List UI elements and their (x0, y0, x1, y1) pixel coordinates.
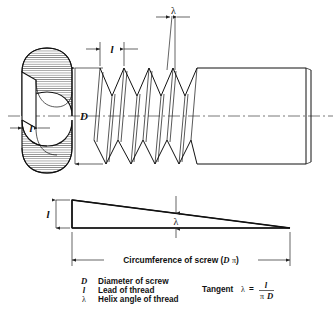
diameter-label: D (79, 110, 88, 122)
thread-flank-4b (146, 71, 152, 142)
legend-symbol-2: λ (82, 295, 86, 304)
helix-angle-dimension-top: λ (156, 5, 190, 70)
formula-variable: λ (241, 285, 245, 294)
coil-cut-face (22, 72, 36, 128)
circumference-caption: Circumference of screw (D π) (123, 255, 239, 265)
circumference-caption-suffix: ) (236, 255, 239, 265)
circumference-caption-d: D (222, 255, 229, 265)
triangle-lead-dimension: l (46, 200, 70, 228)
helix-coil (22, 48, 72, 173)
triangle-lead-label: l (46, 208, 50, 220)
legend-symbol-1: l (83, 285, 86, 295)
lead-label-top: l (110, 43, 114, 55)
formula-numerator: l (265, 280, 268, 290)
formula-denominator-pi: π (260, 292, 264, 301)
triangle-helix-angle-label: λ (174, 216, 179, 227)
lambda-ext-left (167, 16, 172, 70)
shaft-end-bottom-join (306, 162, 311, 164)
helix-angle-label-top: λ (171, 5, 176, 16)
lead-dimension-top: l (86, 42, 138, 66)
legend-description-2: Helix angle of thread (98, 295, 179, 304)
thread-flank-6b (170, 71, 176, 142)
formula-denominator-d: D (266, 291, 273, 301)
coil-lead-dimension: l (10, 122, 50, 134)
diagram-canvas: l D (0, 0, 335, 309)
tangent-formula: Tangent λ = l π D (202, 280, 274, 301)
thread-flank-2b (121, 71, 127, 142)
legend: D Diameter of screw l Lead of thread λ H… (80, 276, 179, 304)
circumference-caption-prefix: Circumference of screw ( (123, 255, 223, 265)
legend-description-1: Lead of thread (98, 286, 154, 295)
thread-entry-left (94, 68, 100, 140)
unwound-triangle (72, 200, 290, 228)
triangle-helix-angle: λ (174, 196, 179, 238)
shaft-end-top-join (306, 68, 311, 70)
formula-lead-text: Tangent (202, 285, 234, 294)
screw-thread-diagram: l D (0, 0, 335, 309)
thread-entry-left2 (97, 72, 103, 142)
circumference-dimension: Circumference of screw (D π) (72, 232, 290, 266)
formula-equals: = (249, 285, 254, 294)
legend-description-0: Diameter of screw (98, 277, 169, 286)
